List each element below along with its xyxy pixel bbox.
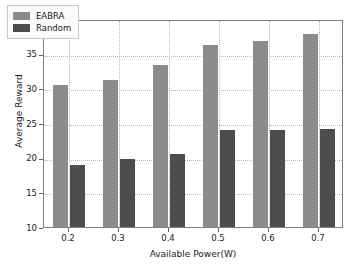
gridline-horizontal xyxy=(44,56,342,57)
x-tick-label: 0.4 xyxy=(148,234,188,243)
bar-random-0.2 xyxy=(70,165,85,227)
x-tick-mark xyxy=(218,228,219,232)
legend-item: Random xyxy=(13,22,71,34)
gridline-horizontal xyxy=(44,125,342,126)
x-tick-label: 0.5 xyxy=(198,234,238,243)
x-tick-label: 0.7 xyxy=(298,234,338,243)
plot-area xyxy=(43,20,343,228)
y-tick-label: 15 xyxy=(16,189,37,198)
legend-label-eabra: EABRA xyxy=(36,12,64,21)
x-tick-mark xyxy=(268,228,269,232)
gridline-horizontal xyxy=(44,194,342,195)
y-tick-label: 20 xyxy=(16,154,37,163)
x-tick-label: 0.3 xyxy=(98,234,138,243)
x-tick-mark xyxy=(118,228,119,232)
y-tick-label: 30 xyxy=(16,85,37,94)
bar-eabra-0.2 xyxy=(53,85,68,227)
bar-random-0.3 xyxy=(120,159,135,227)
y-tick-label: 10 xyxy=(16,224,37,233)
x-tick-mark xyxy=(68,228,69,232)
x-tick-mark xyxy=(168,228,169,232)
bar-eabra-0.7 xyxy=(303,34,318,227)
bar-random-0.6 xyxy=(270,130,285,227)
bar-eabra-0.3 xyxy=(103,80,118,227)
bar-random-0.7 xyxy=(320,129,335,227)
chart-figure: Average Reward 10152025303540 0.20.30.40… xyxy=(0,0,356,272)
bar-eabra-0.4 xyxy=(153,65,168,227)
x-tick-label: 0.6 xyxy=(248,234,288,243)
legend-label-random: Random xyxy=(36,24,71,33)
bar-random-0.4 xyxy=(170,154,185,227)
y-tick-mark xyxy=(39,228,43,229)
x-tick-label: 0.2 xyxy=(48,234,88,243)
gridline-horizontal xyxy=(44,90,342,91)
x-axis-title: Available Power(W) xyxy=(43,249,343,259)
bar-random-0.5 xyxy=(220,130,235,227)
y-tick-label: 25 xyxy=(16,120,37,129)
x-tick-mark xyxy=(318,228,319,232)
chart-legend: EABRA Random xyxy=(7,5,79,39)
legend-item: EABRA xyxy=(13,10,71,22)
y-tick-label: 35 xyxy=(16,50,37,59)
gridline-horizontal xyxy=(44,160,342,161)
legend-swatch-eabra xyxy=(13,12,30,20)
bar-eabra-0.5 xyxy=(203,45,218,227)
bar-eabra-0.6 xyxy=(253,41,268,228)
legend-swatch-random xyxy=(13,24,30,32)
